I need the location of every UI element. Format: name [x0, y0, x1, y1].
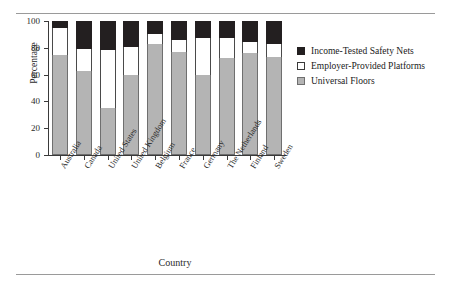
bar-segment [219, 58, 235, 155]
bar-segment [147, 21, 163, 34]
bar-finland[interactable] [242, 21, 258, 155]
x-axis-tick [108, 156, 109, 160]
bar-segment [76, 49, 92, 71]
bar-segment [266, 57, 282, 155]
bar-segment [242, 21, 258, 42]
bottom-divider-rule [16, 274, 435, 275]
x-axis-tick [179, 156, 180, 160]
x-axis-tick [274, 156, 275, 160]
plot-area [48, 21, 286, 155]
bar-segment [242, 53, 258, 155]
bar-segment [100, 50, 116, 108]
bar-segment [52, 28, 68, 55]
bar-segment [76, 71, 92, 155]
bar-australia[interactable] [52, 21, 68, 155]
x-axis-title: Country [120, 257, 230, 268]
x-axis-tick [250, 156, 251, 160]
x-axis-tick [84, 156, 85, 160]
bar-segment [147, 34, 163, 43]
x-axis-tick [155, 156, 156, 160]
top-divider-rule [16, 13, 435, 14]
y-axis-title: Percentage [29, 23, 39, 103]
x-axis-tick [131, 156, 132, 160]
x-axis-tick [203, 156, 204, 160]
bar-segment [171, 21, 187, 40]
y-axis-tick-label: 20 [31, 124, 40, 133]
bar-segment [100, 108, 116, 155]
legend-label: Income-Tested Safety Nets [311, 46, 414, 56]
bar-segment [195, 21, 211, 38]
bar-segment [242, 42, 258, 53]
figure: 020406080100 Percentage Country Australi… [0, 0, 451, 283]
bar-belgium[interactable] [147, 21, 163, 155]
legend-item[interactable]: Universal Floors [297, 76, 447, 86]
legend-label: Employer-Provided Platforms [311, 61, 425, 71]
legend-label: Universal Floors [311, 76, 375, 86]
bar-segment [52, 55, 68, 156]
legend-swatch-icon [297, 77, 305, 85]
bar-segment [266, 21, 282, 44]
bar-segment [147, 44, 163, 155]
bar-segment [171, 52, 187, 155]
legend: Income-Tested Safety NetsEmployer-Provid… [297, 46, 447, 91]
bar-segment [219, 21, 235, 38]
bar-segment [52, 21, 68, 28]
bar-united-kingdom[interactable] [123, 21, 139, 155]
legend-swatch-icon [297, 62, 305, 70]
bar-segment [123, 75, 139, 155]
bar-united-states[interactable] [100, 21, 116, 155]
bar-segment [76, 21, 92, 49]
bar-segment [219, 38, 235, 58]
bar-sweden[interactable] [266, 21, 282, 155]
bar-germany[interactable] [195, 21, 211, 155]
legend-item[interactable]: Income-Tested Safety Nets [297, 46, 447, 56]
bar-segment [100, 21, 116, 50]
bar-segment [123, 21, 139, 47]
bar-canada[interactable] [76, 21, 92, 155]
bar-the-netherlands[interactable] [219, 21, 235, 155]
legend-swatch-icon [297, 47, 305, 55]
bar-segment [195, 38, 211, 74]
x-axis-tick [227, 156, 228, 160]
x-axis-tick [60, 156, 61, 160]
bar-segment [171, 40, 187, 52]
x-axis-ticks [48, 156, 286, 161]
y-axis-tick-label: 0 [36, 151, 41, 160]
bar-segment [195, 75, 211, 155]
legend-item[interactable]: Employer-Provided Platforms [297, 61, 447, 71]
bar-france[interactable] [171, 21, 187, 155]
y-axis-tick-labels: 020406080100 [0, 21, 48, 155]
bar-segment [123, 47, 139, 74]
bar-segment [266, 44, 282, 57]
